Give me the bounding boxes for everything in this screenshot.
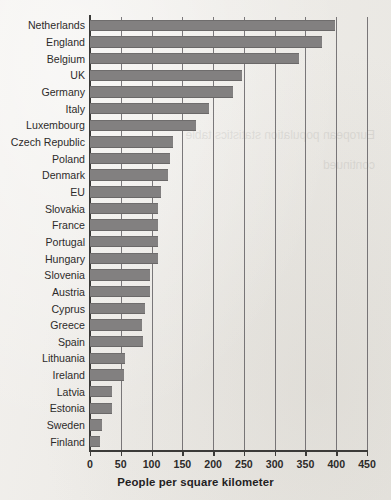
category-label-poland: Poland <box>1 154 85 165</box>
category-label-lithuania: Lithuania <box>1 353 85 364</box>
tick-mark-250 <box>244 451 245 456</box>
bar-row <box>90 167 367 184</box>
tick-label-350: 350 <box>297 458 315 470</box>
bar-estonia <box>90 403 112 414</box>
category-label-greece: Greece <box>1 320 85 331</box>
bar-row <box>90 367 367 384</box>
bar-finland <box>90 436 100 447</box>
tick-label-200: 200 <box>204 458 222 470</box>
category-label-netherlands: Netherlands <box>1 20 85 31</box>
bar-greece <box>90 319 142 330</box>
category-label-eu: EU <box>1 187 85 198</box>
category-label-latvia: Latvia <box>1 387 85 398</box>
bar-row <box>90 400 367 417</box>
tick-label-100: 100 <box>143 458 161 470</box>
category-label-uk: UK <box>1 70 85 81</box>
category-label-sweden: Sweden <box>1 420 85 431</box>
category-label-hungary: Hungary <box>1 254 85 265</box>
bar-row <box>90 84 367 101</box>
tick-label-0: 0 <box>87 458 93 470</box>
category-label-france: France <box>1 220 85 231</box>
category-label-czech-republic: Czech Republic <box>1 137 85 148</box>
tick-mark-0 <box>90 451 91 456</box>
tick-mark-100 <box>152 451 153 456</box>
category-label-cyprus: Cyprus <box>1 304 85 315</box>
bar-england <box>90 36 322 47</box>
bar-portugal <box>90 236 158 247</box>
tick-label-50: 50 <box>115 458 127 470</box>
bar-czech-republic <box>90 136 173 147</box>
category-label-denmark: Denmark <box>1 170 85 181</box>
category-label-portugal: Portugal <box>1 237 85 248</box>
bar-uk <box>90 70 242 81</box>
tick-mark-50 <box>121 451 122 456</box>
bar-row <box>90 50 367 67</box>
bar-sweden <box>90 419 102 430</box>
category-label-slovenia: Slovenia <box>1 270 85 281</box>
tick-label-300: 300 <box>266 458 284 470</box>
bar-row <box>90 433 367 450</box>
bar-row <box>90 17 367 34</box>
bar-row <box>90 184 367 201</box>
bar-row <box>90 150 367 167</box>
bar-row <box>90 250 367 267</box>
bar-spain <box>90 336 143 347</box>
bar-row <box>90 217 367 234</box>
category-label-slovakia: Slovakia <box>1 204 85 215</box>
tick-label-150: 150 <box>173 458 191 470</box>
bar-france <box>90 219 158 230</box>
tick-mark-400 <box>336 451 337 456</box>
bar-row <box>90 200 367 217</box>
bar-ireland <box>90 369 124 380</box>
bar-netherlands <box>90 20 335 31</box>
bar-slovakia <box>90 203 158 214</box>
category-label-ireland: Ireland <box>1 370 85 381</box>
bar-cyprus <box>90 303 145 314</box>
tick-mark-150 <box>182 451 183 456</box>
bar-row <box>90 333 367 350</box>
bar-row <box>90 267 367 284</box>
gridline-450 <box>367 17 368 450</box>
category-label-finland: Finland <box>1 437 85 448</box>
category-label-luxembourg: Luxembourg <box>1 120 85 131</box>
category-label-austria: Austria <box>1 287 85 298</box>
tick-mark-350 <box>305 451 306 456</box>
bar-austria <box>90 286 150 297</box>
category-label-spain: Spain <box>1 337 85 348</box>
bar-slovenia <box>90 269 150 280</box>
tick-mark-450 <box>367 451 368 456</box>
bar-row <box>90 100 367 117</box>
bar-italy <box>90 103 209 114</box>
bar-poland <box>90 153 170 164</box>
tick-mark-300 <box>275 451 276 456</box>
bar-eu <box>90 186 161 197</box>
bar-row <box>90 350 367 367</box>
tick-mark-200 <box>213 451 214 456</box>
bar-row <box>90 283 367 300</box>
bar-latvia <box>90 386 112 397</box>
bar-row <box>90 34 367 51</box>
x-axis-title: People per square kilometer <box>0 476 391 488</box>
bar-row <box>90 417 367 434</box>
bar-row <box>90 383 367 400</box>
category-label-estonia: Estonia <box>1 403 85 414</box>
category-label-germany: Germany <box>1 87 85 98</box>
bar-hungary <box>90 253 158 264</box>
bar-lithuania <box>90 353 125 364</box>
bar-row <box>90 67 367 84</box>
tick-label-250: 250 <box>235 458 253 470</box>
category-label-italy: Italy <box>1 104 85 115</box>
category-label-belgium: Belgium <box>1 54 85 65</box>
bar-luxembourg <box>90 120 196 131</box>
tick-label-450: 450 <box>358 458 376 470</box>
tick-label-400: 400 <box>327 458 345 470</box>
bar-row <box>90 117 367 134</box>
population-density-bar-chart: 050100150200250300350400450 NetherlandsE… <box>0 0 391 500</box>
bar-denmark <box>90 169 168 180</box>
bar-germany <box>90 86 233 97</box>
bar-row <box>90 300 367 317</box>
bar-row <box>90 234 367 251</box>
bar-row <box>90 134 367 151</box>
plot-area <box>90 17 367 450</box>
bar-belgium <box>90 53 299 64</box>
